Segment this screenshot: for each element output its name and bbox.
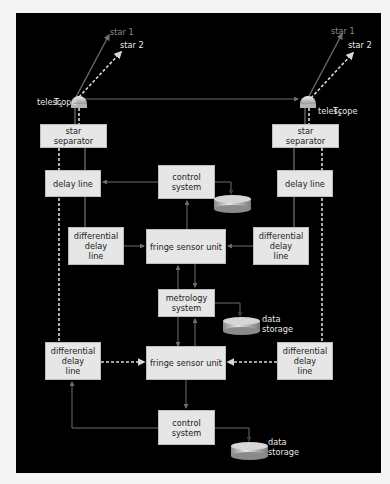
star2-label-t2: star 2	[348, 40, 372, 50]
star2-ray-t1	[79, 52, 121, 97]
star1-label-t2: star 1	[331, 26, 355, 36]
fringe-sensor-unit-top: fringe sensor unit	[146, 229, 226, 264]
database-icon-bottom	[231, 442, 268, 460]
star2-ray-t2	[311, 53, 353, 98]
database-icon-metrology	[223, 317, 260, 335]
telescope-2-symbol: T2	[333, 106, 342, 119]
star1-label-t1: star 1	[110, 27, 134, 37]
delay-line-left: delay line	[45, 170, 101, 197]
differential-delay-line-left-top: differential delay line	[68, 227, 124, 265]
star-separator-left: star separator	[40, 124, 107, 148]
fringe-sensor-unit-bottom: fringe sensor unit	[146, 346, 226, 380]
metrology-system: metrology system	[158, 289, 215, 317]
control-system-bottom: control system	[158, 410, 215, 445]
telescope-2-icon	[300, 96, 316, 108]
telescope-1-symbol: T1	[54, 97, 63, 110]
data-storage-label-metrology: data storage	[262, 314, 293, 334]
star2-label-t1: star 2	[120, 40, 144, 50]
database-icon-control	[214, 195, 251, 213]
star-separator-right: star separator	[272, 124, 339, 148]
differential-delay-line-right-bottom: differential delay line	[277, 342, 333, 380]
data-storage-label-bottom: data storage	[268, 437, 299, 457]
differential-delay-line-left-bottom: differential delay line	[45, 342, 101, 380]
control-system-top: control system	[158, 165, 215, 199]
differential-delay-line-right-top: differential delay line	[253, 227, 309, 265]
delay-line-right: delay line	[277, 170, 333, 197]
star1-ray-t1	[76, 35, 109, 97]
star1-ray-t2	[308, 34, 342, 98]
